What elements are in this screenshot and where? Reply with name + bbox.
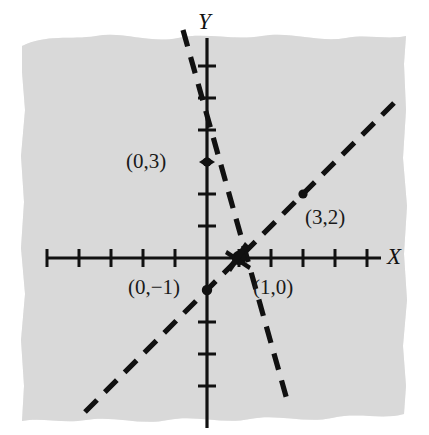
y-axis-label: Y bbox=[198, 10, 211, 33]
coordinate-plane-figure: ples through 1 bbox=[0, 0, 429, 435]
figure-canvas bbox=[0, 0, 429, 435]
label-point-1-0: (1,0) bbox=[253, 277, 293, 298]
label-point-3-2: (3,2) bbox=[305, 207, 345, 228]
label-point-0-minus-1: (0,−1) bbox=[128, 277, 180, 298]
label-point-0-3: (0,3) bbox=[126, 151, 166, 172]
x-axis-label: X bbox=[387, 245, 401, 268]
point-0-minus-1 bbox=[202, 285, 212, 295]
point-3-2 bbox=[298, 189, 307, 198]
